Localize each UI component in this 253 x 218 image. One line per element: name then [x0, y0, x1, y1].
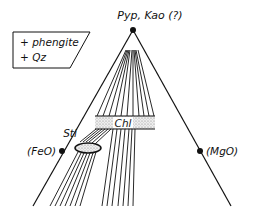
chlorite-label: Chl	[115, 117, 132, 129]
chlorite-band: Chl	[95, 116, 155, 129]
mgo-label: (MgO)	[206, 145, 238, 157]
staurolite-field	[75, 143, 101, 153]
staurolite-label: Sti	[63, 127, 77, 139]
chl-lower-lines	[102, 129, 135, 206]
sti-lower-lines	[50, 152, 96, 206]
mgo-point	[197, 148, 203, 154]
legend-phengite: + phengite	[20, 36, 79, 48]
apex-label: Pyp, Kao (?)	[117, 9, 182, 22]
feo-point	[59, 148, 65, 154]
feo-label: (FeO)	[27, 145, 56, 157]
legend-box: + phengite + Qz	[13, 32, 90, 68]
upper-tie-lines	[97, 50, 154, 116]
chl-sti-tie-lines	[80, 129, 111, 144]
legend-quartz: + Qz	[20, 51, 46, 63]
phase-diagram: Pyp, Kao (?) + phengite + Qz Chl	[0, 0, 253, 218]
